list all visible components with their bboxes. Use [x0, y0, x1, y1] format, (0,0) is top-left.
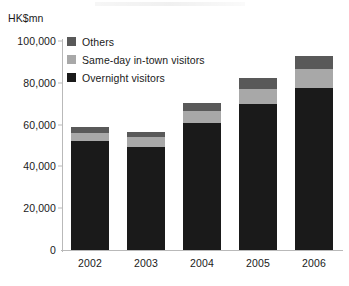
- x-axis-line: [61, 250, 343, 251]
- x-axis-tick-label: 2006: [284, 257, 344, 269]
- y-axis-tick-labels: 100,00080,00060,00040,00020,0000: [0, 0, 56, 286]
- y-axis-tick-label: 60,000: [23, 119, 56, 131]
- legend-item-label: Same-day in-town visitors: [82, 54, 205, 66]
- stacked-bar: [71, 127, 109, 250]
- scan-artifact: [95, 2, 245, 6]
- bar-group: [295, 41, 333, 250]
- bar-segment: [183, 103, 221, 111]
- legend-item: Overnight visitors: [67, 70, 205, 85]
- y-axis-tick-mark: [58, 82, 62, 83]
- y-axis-tick-label: 0: [50, 244, 56, 256]
- legend-swatch-icon: [67, 55, 76, 64]
- x-axis-tick-label: 2002: [60, 257, 120, 269]
- stacked-bar: [127, 132, 165, 250]
- legend-swatch-icon: [67, 73, 76, 82]
- bar-segment: [183, 111, 221, 122]
- x-axis-tick-label: 2005: [228, 257, 288, 269]
- bar-segment: [295, 88, 333, 250]
- x-axis-tick-label: 2003: [116, 257, 176, 269]
- bar-segment: [127, 147, 165, 250]
- legend-item: Others: [67, 34, 205, 49]
- y-axis-tick-label: 100,000: [17, 35, 56, 47]
- x-axis-tick-label: 2004: [172, 257, 232, 269]
- stacked-bar: [183, 103, 221, 250]
- bar-segment: [295, 56, 333, 70]
- y-axis-tick-label: 40,000: [23, 160, 56, 172]
- chart-legend: OthersSame-day in-town visitorsOvernight…: [67, 34, 205, 88]
- y-axis-tick-mark: [58, 41, 62, 42]
- stacked-bar: [295, 56, 333, 250]
- legend-item: Same-day in-town visitors: [67, 52, 205, 67]
- y-axis-tick-label: 20,000: [23, 202, 56, 214]
- bar-segment: [239, 78, 277, 89]
- y-axis-tick-mark: [58, 208, 62, 209]
- legend-item-label: Overnight visitors: [82, 72, 165, 84]
- bar-segment: [127, 137, 165, 146]
- legend-item-label: Others: [82, 36, 114, 48]
- stacked-bar: [239, 78, 277, 250]
- bar-segment: [295, 69, 333, 88]
- legend-swatch-icon: [67, 37, 76, 46]
- bar-segment: [239, 104, 277, 250]
- bar-segment: [71, 133, 109, 141]
- y-axis-tick-mark: [58, 124, 62, 125]
- y-axis-tick-label: 80,000: [23, 77, 56, 89]
- y-axis-tick-mark: [58, 166, 62, 167]
- bar-segment: [71, 141, 109, 250]
- bar-group: [239, 41, 277, 250]
- chart-page: HK$mn 100,00080,00060,00040,00020,0000 O…: [0, 0, 349, 286]
- bar-segment: [239, 89, 277, 104]
- bar-segment: [183, 123, 221, 250]
